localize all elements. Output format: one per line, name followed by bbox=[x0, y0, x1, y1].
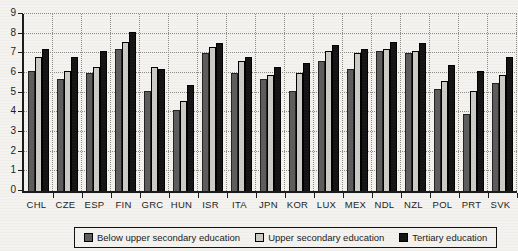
y-tick-7 bbox=[18, 52, 23, 53]
x-label-nzl: NZL bbox=[399, 196, 428, 210]
y-tick-1 bbox=[18, 170, 23, 171]
bar-mex-upper-secondary-education bbox=[354, 53, 361, 191]
y-tick-label-3: 3 bbox=[2, 126, 16, 136]
bar-ndl-tertiary-education bbox=[390, 42, 397, 191]
bar-pol-below-upper-secondary-education bbox=[434, 89, 441, 191]
category-cell-prt bbox=[459, 14, 488, 191]
bar-fin-tertiary-education bbox=[129, 32, 136, 191]
bar-group-prt bbox=[463, 14, 484, 191]
y-tick-label-8: 8 bbox=[2, 28, 16, 38]
bar-group-mex bbox=[347, 14, 368, 191]
bar-chl-tertiary-education bbox=[42, 49, 49, 191]
category-cell-pol bbox=[430, 14, 459, 191]
bar-group-cze bbox=[57, 14, 78, 191]
x-label-svk: SVK bbox=[486, 196, 515, 210]
y-tick-3 bbox=[18, 131, 23, 132]
bar-prt-upper-secondary-education bbox=[470, 91, 477, 191]
y-tick-0 bbox=[18, 190, 23, 191]
x-label-hun: HUN bbox=[167, 196, 196, 210]
bar-lux-upper-secondary-education bbox=[325, 51, 332, 191]
bar-nzl-below-upper-secondary-education bbox=[405, 53, 412, 191]
bar-group-isr bbox=[202, 14, 223, 191]
x-label-grc: GRC bbox=[138, 196, 167, 210]
y-tick-label-1: 1 bbox=[2, 165, 16, 175]
category-cell-mex bbox=[343, 14, 372, 191]
bar-nzl-upper-secondary-education bbox=[412, 51, 419, 191]
y-tick-label-7: 7 bbox=[2, 47, 16, 57]
category-cell-isr bbox=[198, 14, 227, 191]
bar-esp-upper-secondary-education bbox=[93, 67, 100, 191]
x-label-lux: LUX bbox=[312, 196, 341, 210]
bar-ndl-upper-secondary-education bbox=[383, 49, 390, 191]
bar-prt-tertiary-education bbox=[477, 71, 484, 191]
category-cell-svk bbox=[488, 14, 517, 191]
legend-item: Below upper secondary education bbox=[84, 232, 240, 243]
legend-swatch bbox=[255, 233, 264, 242]
bar-grc-upper-secondary-education bbox=[151, 67, 158, 191]
legend-item: Upper secondary education bbox=[255, 232, 384, 243]
x-label-ita: ITA bbox=[225, 196, 254, 210]
bar-group-esp bbox=[86, 14, 107, 191]
bar-isr-tertiary-education bbox=[216, 43, 223, 191]
category-cell-grc bbox=[140, 14, 169, 191]
bar-lux-below-upper-secondary-education bbox=[318, 61, 325, 191]
bar-ita-upper-secondary-education bbox=[238, 61, 245, 191]
bar-jpn-upper-secondary-education bbox=[267, 75, 274, 191]
bar-ita-tertiary-education bbox=[245, 57, 252, 191]
category-cell-jpn bbox=[256, 14, 285, 191]
bar-fin-below-upper-secondary-education bbox=[115, 49, 122, 191]
bar-cze-tertiary-education bbox=[71, 57, 78, 191]
x-label-fin: FIN bbox=[109, 196, 138, 210]
bar-grc-below-upper-secondary-education bbox=[144, 91, 151, 191]
bar-esp-tertiary-education bbox=[100, 51, 107, 191]
bar-prt-below-upper-secondary-education bbox=[463, 114, 470, 191]
x-label-chl: CHL bbox=[22, 196, 51, 210]
bar-chart-figure: 0123456789 CHLCZEESPFINGRCHUNISRITAJPNKO… bbox=[0, 0, 518, 251]
y-tick-2 bbox=[18, 151, 23, 152]
bar-group-nzl bbox=[405, 14, 426, 191]
bar-ndl-below-upper-secondary-education bbox=[376, 51, 383, 191]
x-label-esp: ESP bbox=[80, 196, 109, 210]
bar-cze-below-upper-secondary-education bbox=[57, 79, 64, 191]
y-tick-8 bbox=[18, 33, 23, 34]
x-label-mex: MEX bbox=[341, 196, 370, 210]
x-label-prt: PRT bbox=[457, 196, 486, 210]
bar-ita-below-upper-secondary-education bbox=[231, 73, 238, 191]
bar-grc-tertiary-education bbox=[158, 69, 165, 191]
bar-kor-below-upper-secondary-education bbox=[289, 91, 296, 191]
bar-fin-upper-secondary-education bbox=[122, 42, 129, 191]
bar-group-fin bbox=[115, 14, 136, 191]
x-label-ndl: NDL bbox=[370, 196, 399, 210]
bar-mex-tertiary-education bbox=[361, 49, 368, 191]
category-cell-hun bbox=[169, 14, 198, 191]
y-tick-label-9: 9 bbox=[2, 8, 16, 18]
category-cell-chl bbox=[24, 14, 53, 191]
y-tick-label-5: 5 bbox=[2, 87, 16, 97]
legend-label: Upper secondary education bbox=[268, 232, 384, 243]
category-cell-kor bbox=[285, 14, 314, 191]
bar-chl-upper-secondary-education bbox=[35, 57, 42, 191]
bar-group-hun bbox=[173, 14, 194, 191]
bar-pol-tertiary-education bbox=[448, 65, 455, 191]
y-tick-label-6: 6 bbox=[2, 67, 16, 77]
category-cell-ita bbox=[227, 14, 256, 191]
category-cell-lux bbox=[314, 14, 343, 191]
plot-cells bbox=[24, 14, 517, 191]
legend-swatch bbox=[399, 233, 408, 242]
bar-hun-tertiary-education bbox=[187, 85, 194, 191]
bar-jpn-below-upper-secondary-education bbox=[260, 79, 267, 191]
bar-group-pol bbox=[434, 14, 455, 191]
bar-isr-below-upper-secondary-education bbox=[202, 53, 209, 191]
x-label-pol: POL bbox=[428, 196, 457, 210]
x-label-jpn: JPN bbox=[254, 196, 283, 210]
bar-svk-upper-secondary-education bbox=[499, 75, 506, 191]
category-cell-ndl bbox=[372, 14, 401, 191]
y-tick-9 bbox=[18, 13, 23, 14]
bar-group-grc bbox=[144, 14, 165, 191]
bar-jpn-tertiary-education bbox=[274, 67, 281, 191]
category-cell-fin bbox=[111, 14, 140, 191]
x-axis-labels: CHLCZEESPFINGRCHUNISRITAJPNKORLUXMEXNDLN… bbox=[22, 196, 515, 210]
y-tick-label-4: 4 bbox=[2, 106, 16, 116]
bar-pol-upper-secondary-education bbox=[441, 81, 448, 191]
legend-item: Tertiary education bbox=[399, 232, 487, 243]
